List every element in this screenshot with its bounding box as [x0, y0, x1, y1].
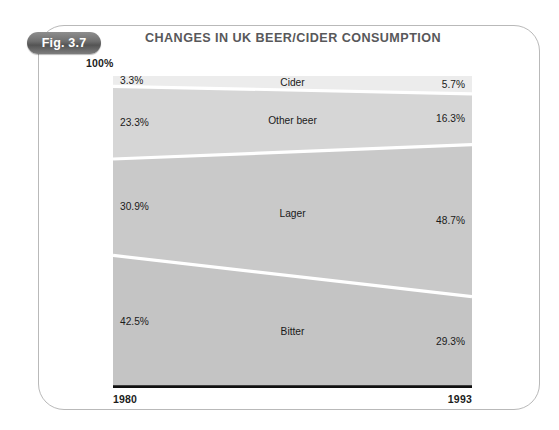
y-axis-max-label: 100% [86, 57, 114, 69]
plot-area: 3.3% Cider 5.7% 23.3% Other beer 16.3% 3… [113, 76, 472, 388]
figure-root: Fig. 3.7 CHANGES IN UK BEER/CIDER CONSUM… [0, 0, 559, 430]
figure-number-badge: Fig. 3.7 [27, 32, 101, 54]
x-axis-label-start: 1980 [113, 393, 137, 405]
chart-title: CHANGES IN UK BEER/CIDER CONSUMPTION [113, 31, 473, 45]
x-axis-label-end: 1993 [448, 393, 472, 405]
stacked-area-bands [113, 76, 472, 388]
